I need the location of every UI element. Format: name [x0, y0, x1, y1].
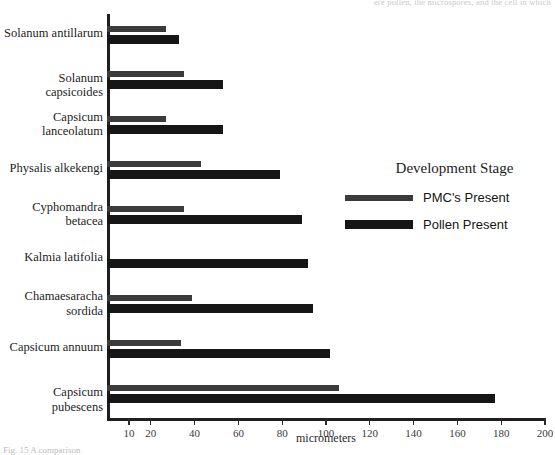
bar-pmc — [107, 340, 181, 346]
x-tick — [369, 418, 370, 425]
x-axis-title: micrometers — [107, 431, 545, 446]
x-tick — [238, 418, 239, 425]
legend-label-pmc: PMC's Present — [423, 190, 509, 205]
x-tick — [457, 418, 458, 425]
x-tick — [150, 418, 151, 425]
bar-pollen — [107, 170, 280, 179]
legend-label-pollen: Pollen Present — [423, 217, 508, 232]
category-label: Capsicum annuum — [0, 340, 103, 355]
category-label-line: Solanum capsicoides — [0, 71, 103, 100]
bar-pmc — [107, 161, 201, 167]
category-label-line: Solanum antillarum — [0, 26, 103, 41]
category-label: Capsicum pubescens — [0, 385, 103, 414]
chart-legend: Development Stage PMC's Present Pollen P… — [345, 160, 550, 244]
x-tick — [282, 418, 283, 425]
bar-pollen — [107, 349, 330, 358]
category-label-line: Capsicum — [0, 110, 103, 125]
x-tick — [194, 418, 195, 425]
category-label-line: Chamaesaracha — [0, 289, 103, 304]
category-label: Capsicumlanceolatum — [0, 110, 103, 139]
bottom-cutoff-caption: Fig. 15 A comparison — [3, 445, 81, 455]
top-cutoff-caption: ere pollen, the microspores, and the cel… — [374, 0, 551, 7]
bar-pollen — [107, 80, 223, 89]
legend-title: Development Stage — [345, 160, 550, 177]
bar-pollen — [107, 35, 179, 44]
bar-pollen — [107, 394, 495, 403]
bar-pollen — [107, 215, 302, 224]
bar-pmc — [107, 295, 192, 301]
category-label: Cyphomandrabetacea — [0, 200, 103, 229]
category-label-line: Kalmia latifolia — [0, 250, 103, 265]
category-label-line: Cyphomandra — [0, 200, 103, 215]
bar-pollen — [107, 259, 308, 268]
bar-pmc — [107, 26, 166, 32]
bar-pollen — [107, 125, 223, 134]
bar-pmc — [107, 71, 184, 77]
category-label: Kalmia latifolia — [0, 250, 103, 265]
category-label: Chamaesarachasordida — [0, 289, 103, 318]
category-label-line: lanceolatum — [0, 124, 103, 139]
bar-pmc — [107, 206, 184, 212]
category-label-line: Capsicum annuum — [0, 340, 103, 355]
category-label: Solanum capsicoides — [0, 71, 103, 100]
bar-pmc — [107, 116, 166, 122]
legend-swatch-pollen-icon — [345, 220, 413, 229]
category-label: Solanum antillarum — [0, 26, 103, 41]
category-label-line: betacea — [0, 214, 103, 229]
bar-pmc — [107, 385, 339, 391]
x-tick — [501, 418, 502, 425]
category-label-line: Capsicum pubescens — [0, 385, 103, 414]
x-tick — [544, 418, 545, 425]
x-tick — [325, 418, 326, 425]
category-label-line: Physalis alkekengi — [0, 161, 103, 176]
category-label: Physalis alkekengi — [0, 161, 103, 176]
x-tick — [128, 418, 129, 425]
legend-swatch-pmc-icon — [345, 195, 413, 201]
bar-pollen — [107, 304, 313, 313]
legend-item-pmc[interactable]: PMC's Present — [345, 190, 550, 205]
x-tick — [413, 418, 414, 425]
category-label-line: sordida — [0, 304, 103, 319]
legend-item-pollen[interactable]: Pollen Present — [345, 217, 550, 232]
